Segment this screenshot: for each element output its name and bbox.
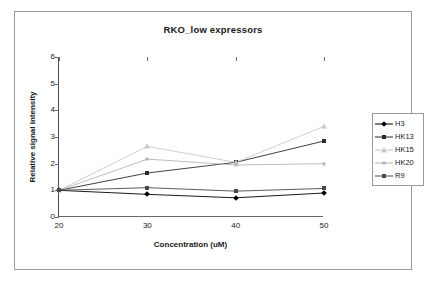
x-tick-label: 40 <box>231 222 240 230</box>
plot-area: 0123456 20304050 <box>58 57 323 217</box>
legend-swatch-hk15 <box>375 144 393 156</box>
series-line-hk13 <box>59 141 324 190</box>
legend-swatch-hk13 <box>375 131 393 143</box>
legend-label: R9 <box>393 171 405 180</box>
legend-label: HK20 <box>393 158 414 167</box>
chart-title: RKO_low expressors <box>15 24 411 35</box>
x-axis-title: Concentration (uM) <box>58 240 323 249</box>
chart-legend: H3HK13HK15HK20R9 <box>372 113 424 186</box>
legend-item-hk20[interactable]: HK20 <box>375 156 421 169</box>
x-tick-label: 30 <box>143 222 152 230</box>
legend-swatch-hk20 <box>375 157 393 169</box>
series-line-r9 <box>59 188 324 191</box>
x-tick-label: 20 <box>55 222 64 230</box>
chart-frame: RKO_low expressors Relative signal inten… <box>14 11 412 270</box>
legend-item-hk13[interactable]: HK13 <box>375 130 421 143</box>
series-line-hk20 <box>59 159 324 190</box>
legend-item-r9[interactable]: R9 <box>375 169 421 182</box>
legend-label: HK13 <box>393 132 414 141</box>
series-lines <box>59 57 324 217</box>
series-line-h3 <box>59 190 324 197</box>
y-axis-title: Relative signal intensity <box>28 91 37 182</box>
x-tick-mark <box>324 57 325 61</box>
legend-label: H3 <box>393 119 405 128</box>
legend-swatch-r9 <box>375 170 393 182</box>
legend-item-h3[interactable]: H3 <box>375 117 421 130</box>
legend-label: HK15 <box>393 145 414 154</box>
x-tick-label: 50 <box>320 222 329 230</box>
series-line-hk15 <box>59 126 324 190</box>
y-tick-mark <box>55 217 59 218</box>
legend-swatch-h3 <box>375 118 393 130</box>
legend-item-hk15[interactable]: HK15 <box>375 143 421 156</box>
